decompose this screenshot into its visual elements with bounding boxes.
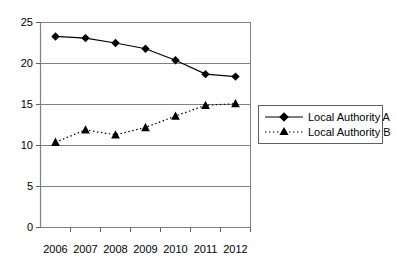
x-tick-label-2008: 2008	[103, 243, 127, 255]
x-tick-label-2009: 2009	[133, 243, 157, 255]
y-tick-label-15: 15	[21, 98, 33, 110]
legend: Local Authority A Local Authority B	[259, 106, 391, 144]
x-tick-label-2006: 2006	[43, 243, 67, 255]
legend-label-a: Local Authority A	[308, 111, 391, 123]
y-tick-label-10: 10	[21, 139, 33, 151]
x-tick-label-2012: 2012	[223, 243, 247, 255]
chart-container: 25 20 15 10 5 0 2006 2007 2008 2009 2010…	[0, 0, 397, 263]
x-tick-label-2010: 2010	[163, 243, 187, 255]
line-chart: 25 20 15 10 5 0 2006 2007 2008 2009 2010…	[0, 0, 397, 263]
legend-label-b: Local Authority B	[308, 126, 391, 138]
y-tick-label-20: 20	[21, 57, 33, 69]
y-tick-label-25: 25	[21, 16, 33, 28]
x-tick-label-2007: 2007	[73, 243, 97, 255]
y-tick-label-0: 0	[27, 221, 33, 233]
x-tick-label-2011: 2011	[194, 243, 218, 255]
x-axis-labels: 2006 2007 2008 2009 2010 2011 2012	[43, 243, 247, 255]
y-tick-label-5: 5	[27, 180, 33, 192]
legend-entry-a[interactable]: Local Authority A	[265, 111, 391, 123]
